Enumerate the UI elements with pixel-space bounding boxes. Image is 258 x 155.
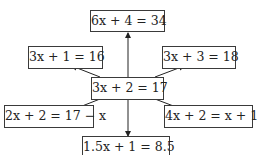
- equation-label: 1.5x + 1 = 8.5: [83, 139, 175, 154]
- equation-label: 6x + 4 = 34: [91, 13, 167, 28]
- equation-label: 4x + 2 = x + 17: [165, 108, 258, 123]
- equation-label: 3x + 3 = 18: [163, 49, 239, 64]
- equation-box-lower-right: 4x + 2 = x + 17: [164, 105, 253, 128]
- equation-box-top: 6x + 4 = 34: [90, 10, 165, 32]
- equation-label: 3x + 2 = 17: [92, 80, 168, 95]
- equation-box-upper-right: 3x + 3 = 18: [162, 46, 236, 69]
- equation-label: 3x + 1 = 16: [29, 49, 105, 64]
- equivalent-equations-diagram: 6x + 4 = 34 3x + 1 = 16 3x + 3 = 18 3x +…: [0, 0, 258, 155]
- equation-box-upper-left: 3x + 1 = 16: [28, 46, 103, 69]
- equation-box-bottom: 1.5x + 1 = 8.5: [82, 136, 170, 155]
- equation-label: 2x + 2 = 17 − x: [5, 108, 106, 123]
- equation-box-center: 3x + 2 = 17: [91, 77, 164, 100]
- equation-box-lower-left: 2x + 2 = 17 − x: [4, 105, 94, 128]
